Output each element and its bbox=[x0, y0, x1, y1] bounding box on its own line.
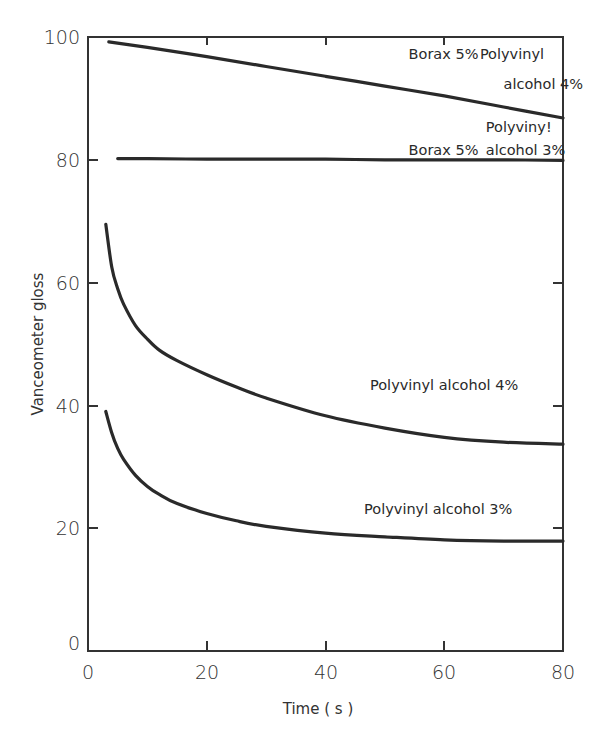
annotation-borax-top: Borax 5% bbox=[409, 46, 479, 62]
line-pva3 bbox=[106, 412, 563, 542]
annotation-polyvinyl-top: Polyvinyl bbox=[480, 46, 544, 62]
x-tick-label: 20 bbox=[195, 661, 219, 683]
y-axis-label: Vanceometer gloss bbox=[29, 272, 47, 415]
annotation-alcohol4-top: alcohol 4% bbox=[504, 76, 583, 92]
annotation-pva4: Polyvinyl alcohol 4% bbox=[370, 377, 518, 393]
annotation-pva3: Polyvinyl alcohol 3% bbox=[364, 501, 512, 517]
y-tick-label: 0 bbox=[68, 632, 80, 654]
y-tick-label: 100 bbox=[44, 26, 80, 48]
x-axis-label: Time ( s ) bbox=[282, 700, 354, 718]
line-borax5-pva3 bbox=[118, 159, 563, 161]
y-tick-label: 60 bbox=[56, 272, 80, 294]
x-tick-label: 40 bbox=[314, 661, 338, 683]
y-tick-label: 80 bbox=[56, 149, 80, 171]
series-layer bbox=[106, 42, 563, 541]
x-tick-label: 80 bbox=[551, 661, 575, 683]
annotation-alcohol3-mid: alcohol 3% bbox=[486, 142, 565, 158]
y-axis: 100 80 60 40 20 0 Vanceometer gloss bbox=[29, 26, 563, 654]
annotation-polyviny-mid: Polyviny! bbox=[486, 119, 552, 135]
annotation-borax-mid: Borax 5% bbox=[409, 142, 479, 158]
line-pva4 bbox=[106, 224, 563, 444]
y-tick-label: 40 bbox=[56, 395, 80, 417]
y-tick-label: 20 bbox=[56, 517, 80, 539]
x-tick-label: 60 bbox=[432, 661, 456, 683]
chart: 100 80 60 40 20 0 Vanceometer gloss 0 20… bbox=[0, 0, 598, 735]
x-tick-label: 0 bbox=[82, 661, 94, 683]
